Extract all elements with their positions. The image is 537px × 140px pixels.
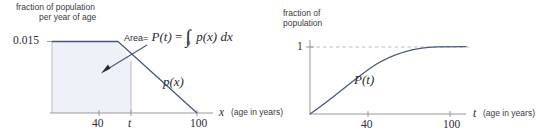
area-formula-annotation: Area= P(t) = ∫t0p(x) dx bbox=[124, 27, 233, 45]
right-x-axis-variable: t bbox=[473, 107, 476, 120]
right-y-tick-label-1: 1 bbox=[297, 40, 303, 53]
shaded-area-region bbox=[52, 42, 131, 114]
area-formula-equals: = bbox=[175, 29, 182, 44]
right-x-tick-label-40: 40 bbox=[361, 118, 373, 131]
left-x-axis-variable: x bbox=[219, 106, 224, 119]
area-formula-word: Area= bbox=[124, 33, 148, 43]
left-x-tick-label-t: t bbox=[128, 117, 131, 130]
right-x-tick-label-100: 100 bbox=[443, 118, 460, 131]
integral-upper-limit: t bbox=[188, 28, 190, 36]
left-x-tick-label-100: 100 bbox=[190, 117, 207, 130]
left-y-tick-label-0015: 0.015 bbox=[13, 34, 39, 47]
right-curve-label-pt: P(t) bbox=[354, 73, 374, 88]
textbook-figure-pair: fraction of population per year of age 0… bbox=[0, 0, 537, 140]
right-plot-group bbox=[306, 40, 470, 117]
left-x-axis-units: (age in years) bbox=[231, 108, 283, 118]
right-x-axis-units: (age in years) bbox=[483, 109, 535, 119]
integrand-expression: p(x) dx bbox=[196, 29, 232, 44]
left-y-axis-title-line2: per year of age bbox=[39, 13, 96, 23]
left-plot-group bbox=[47, 42, 213, 117]
integral-lower-limit: 0 bbox=[187, 39, 191, 47]
right-y-axis-title-line2: population bbox=[283, 19, 322, 29]
left-curve-label-px: p(x) bbox=[163, 75, 184, 90]
area-formula-function: P(t) bbox=[152, 29, 172, 44]
left-x-tick-label-40: 40 bbox=[92, 117, 104, 130]
cumulative-curve-pt bbox=[310, 47, 466, 114]
